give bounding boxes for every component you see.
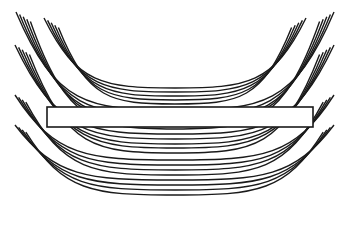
horizontal-bar xyxy=(0,0,350,227)
bar-rectangle xyxy=(47,107,313,127)
diagram-canvas xyxy=(0,0,350,227)
